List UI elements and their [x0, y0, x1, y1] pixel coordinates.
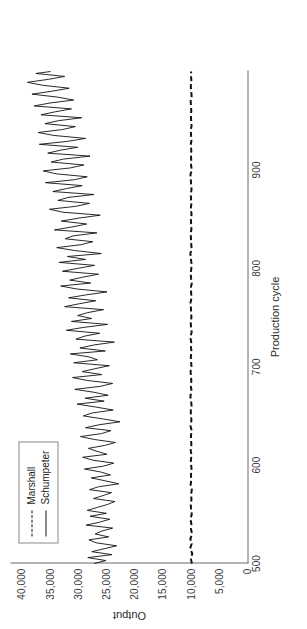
- legend-label-schumpeter: Schumpeter: [39, 450, 51, 504]
- x-axis-title: Production cycle: [268, 70, 280, 563]
- figure-canvas: 05,00010,00015,00020,00025,00030,00035,0…: [0, 0, 307, 629]
- line-chart: 05,00010,00015,00020,00025,00030,00035,0…: [0, 0, 307, 629]
- x-tick-label: 900: [250, 161, 261, 178]
- rotated-chart-frame: 05,00010,00015,00020,00025,00030,00035,0…: [0, 0, 307, 629]
- legend-label-marshall: Marshall: [25, 466, 37, 504]
- x-tick-label: 700: [250, 358, 261, 375]
- legend-entry-marshall[interactable]: Marshall: [24, 450, 38, 536]
- y-tick-label: 30,000: [72, 568, 83, 599]
- x-tick-label: 800: [250, 259, 261, 276]
- y-tick-label: 10,000: [185, 568, 196, 599]
- y-tick-label: 20,000: [129, 568, 140, 599]
- y-tick-label: 5,000: [213, 568, 224, 594]
- y-tick-label: 25,000: [100, 568, 111, 599]
- y-tick-label: 35,000: [44, 568, 55, 599]
- series-line-marshall: [190, 71, 192, 563]
- x-tick-label: 500: [250, 555, 261, 572]
- x-tick-label: 600: [250, 456, 261, 473]
- legend-entry-schumpeter[interactable]: Schumpeter: [38, 450, 52, 536]
- y-tick-label: 40,000: [16, 568, 27, 599]
- y-axis-title: Output: [112, 609, 145, 621]
- chart-legend[interactable]: Marshall Schumpeter: [18, 441, 58, 543]
- solid-line-swatch: [45, 510, 46, 536]
- y-tick-label: 15,000: [157, 568, 168, 599]
- dashed-line-swatch: [31, 510, 32, 536]
